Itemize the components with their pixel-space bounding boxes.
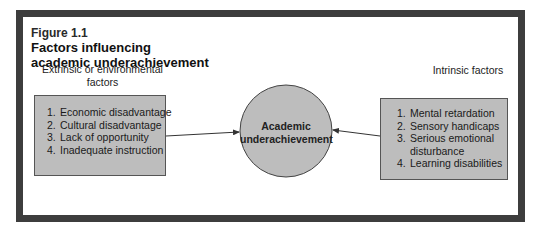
center-label: Academic underachievement [240,120,332,146]
intrinsic-factors-box: 1.Mental retardation 2.Sensory handicaps… [380,98,508,180]
item-number: 4. [397,157,410,170]
item-text: Mental retardation [410,107,495,120]
list-item: 3.Lack of opportunity [47,131,165,144]
extrinsic-factors-box: 1.Economic disadvantage 2.Cultural disad… [34,95,166,176]
list-item: 4.Learning disabilities [397,157,507,170]
item-number: 3. [47,131,60,144]
item-text: Sensory handicaps [410,120,499,133]
item-number: 2. [397,120,410,133]
extrinsic-heading-line-2: factors [40,76,165,89]
list-item: 2.Sensory handicaps [397,120,507,133]
figure-title-line-1: Factors influencing [31,40,209,55]
item-text: Lack of opportunity [60,131,149,144]
intrinsic-factors-list: 1.Mental retardation 2.Sensory handicaps… [397,107,507,170]
item-number: 3. [397,132,410,157]
extrinsic-heading-line-1: Extrinsic or environmental [40,63,165,76]
list-item: 4.Inadequate instruction [47,144,165,157]
item-number: 2. [47,119,60,132]
list-item: 3.Serious emotional disturbance [397,132,507,157]
extrinsic-factors-list: 1.Economic disadvantage 2.Cultural disad… [47,106,165,156]
item-number: 1. [47,106,60,119]
list-item: 1.Economic disadvantage [47,106,165,119]
center-label-line-1: Academic [240,120,332,133]
item-text: Learning disabilities [410,157,502,170]
item-number: 1. [397,107,410,120]
item-text: Cultural disadvantage [60,119,162,132]
item-number: 4. [47,144,60,157]
item-text: Inadequate instruction [60,144,163,157]
intrinsic-factors-heading: Intrinsic factors [418,64,518,77]
center-label-line-2: underachievement [240,133,332,146]
item-text: Economic disadvantage [60,106,172,119]
extrinsic-factors-heading: Extrinsic or environmental factors [40,63,165,89]
item-text: Serious emotional disturbance [410,132,510,157]
list-item: 1.Mental retardation [397,107,507,120]
list-item: 2.Cultural disadvantage [47,119,165,132]
figure-label: Figure 1.1 [31,26,88,40]
